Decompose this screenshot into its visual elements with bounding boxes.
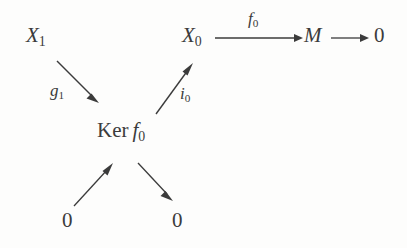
node-m-base: M [304,23,322,47]
arrow-zeroleft-to-ker [74,163,113,206]
node-zero-right: 0 [374,25,385,46]
arrow-x0-to-m [215,34,303,42]
arrow-label-f0-subscript: 0 [253,17,259,29]
node-ker-fn-subscript: 0 [138,129,145,144]
node-ker-word: Ker [97,118,128,142]
node-zero-bottom-left: 0 [62,210,73,231]
node-x0: X0 [182,25,202,49]
arrow-label-g1: g1 [50,82,64,101]
node-x0-subscript: 0 [195,34,202,49]
arrow-label-g1-subscript: 1 [59,89,65,101]
node-x1-subscript: 1 [39,34,46,49]
node-x1-base: X [26,23,39,47]
commutative-diagram: X1 X0 M 0 Kerf0 0 0 g1 i0 f0 [0,0,407,248]
arrow-label-g1-base: g [50,81,59,100]
node-ker-f0: Kerf0 [97,120,145,144]
arrow-label-i0: i0 [180,85,190,104]
node-zero-bottom-right: 0 [172,210,183,231]
node-x1: X1 [26,25,46,49]
arrow-label-f0: f0 [248,10,258,29]
node-m: M [304,25,322,46]
node-x0-base: X [182,23,195,47]
arrow-label-i0-subscript: 0 [185,92,191,104]
arrow-m-to-zero [331,34,369,42]
arrow-ker-to-zeroright [138,163,173,201]
